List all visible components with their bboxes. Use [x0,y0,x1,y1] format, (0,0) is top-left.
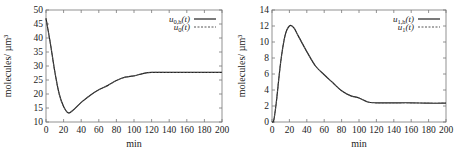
y-tick-label: 14 [260,5,270,15]
y-tick-label: 10 [260,37,270,47]
x-tick-label: 140 [387,125,402,135]
legend-label: u0(t) [174,22,190,33]
series-line-exact [46,18,222,113]
series-line-approx [46,18,222,113]
y-tick-label: 20 [34,89,44,99]
x-tick-label: 40 [76,125,86,135]
x-tick-label: 20 [59,125,69,135]
x-tick-label: 20 [285,125,295,135]
x-tick-label: 200 [439,125,454,135]
x-tick-label: 100 [352,125,367,135]
x-tick-label: 200 [215,125,230,135]
x-tick-label: 160 [404,125,419,135]
y-tick-label: 2 [264,101,269,111]
figure: 0204060801001201401601802001015202530354… [0,0,466,155]
y-tick-label: 50 [34,5,44,15]
y-tick-label: 4 [264,85,269,95]
y-tick-label: 25 [34,75,44,85]
x-tick-label: 60 [94,125,104,135]
x-tick-label: 0 [270,125,275,135]
x-tick-label: 180 [197,125,212,135]
x-tick-label: 180 [421,125,436,135]
legend: u0,h(t)u0(t) [169,14,216,33]
y-tick-label: 8 [264,53,269,63]
series-line-approx [272,25,446,122]
x-tick-label: 80 [337,125,347,135]
y-tick-label: 45 [34,19,44,29]
y-tick-label: 6 [264,69,269,79]
y-tick-label: 40 [34,33,44,43]
x-tick-label: 100 [127,125,142,135]
x-axis-label: min [126,138,142,149]
series-line-exact [272,25,446,122]
x-axis-label: min [351,138,367,149]
x-tick-label: 120 [144,125,159,135]
chart-2: 02040608010012014016018020002468101214mi… [236,5,453,149]
x-tick-label: 120 [369,125,384,135]
x-tick-label: 80 [112,125,122,135]
y-tick-label: 35 [34,47,44,57]
x-tick-label: 60 [319,125,329,135]
legend-label: u1(t) [398,22,414,33]
y-tick-label: 30 [34,61,44,71]
x-tick-label: 140 [162,125,177,135]
y-tick-label: 10 [34,117,44,127]
y-axis-label: molecules/ µm³ [236,35,247,97]
legend: u1,h(t)u1(t) [393,14,440,33]
y-tick-label: 15 [34,103,44,113]
chart-1: 0204060801001201401601802001015202530354… [2,5,229,149]
y-tick-label: 0 [264,117,269,127]
x-tick-label: 0 [44,125,49,135]
y-axis-label: molecules/ µm³ [2,35,13,97]
x-tick-label: 160 [180,125,195,135]
x-tick-label: 40 [302,125,312,135]
y-tick-label: 12 [260,21,270,31]
